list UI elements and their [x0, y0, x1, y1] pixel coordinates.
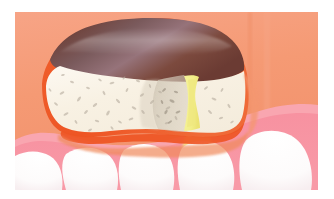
frame-border-top — [0, 0, 334, 12]
mucosa-tonal-seam-secondary — [264, 12, 270, 120]
illustration-canvas: Oral mucosal ulcer with pseudomembrane a… — [0, 0, 334, 199]
frame-border-left — [0, 0, 15, 199]
medical-illustration-figure: Oral mucosal ulcer with pseudomembrane a… — [0, 0, 334, 199]
frame-border-right — [318, 0, 334, 199]
frame-border-bottom — [0, 190, 334, 199]
